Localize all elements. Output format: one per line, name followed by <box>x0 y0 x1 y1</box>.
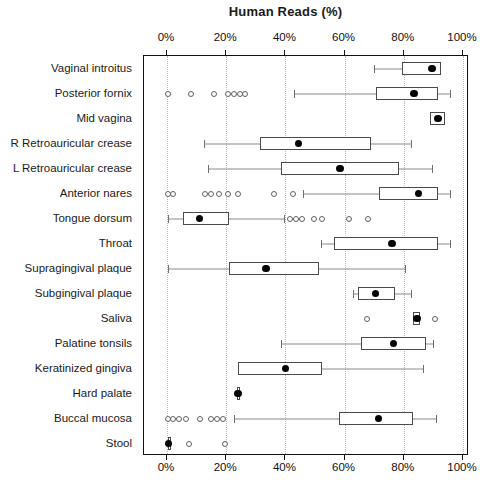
outlier-point <box>176 416 182 422</box>
iqr-box <box>183 212 229 225</box>
mean-marker <box>434 115 442 123</box>
category-label-stool: Stool <box>0 437 138 449</box>
outlier-point <box>216 191 222 197</box>
outlier-point <box>225 91 231 97</box>
x-tick-bottom <box>403 455 404 460</box>
whisker-low-cap <box>168 215 169 223</box>
whisker-low-line <box>208 168 281 169</box>
outlier-point <box>271 191 277 197</box>
outlier-point <box>287 216 293 222</box>
outlier-point <box>346 216 352 222</box>
outlier-point <box>208 191 214 197</box>
x-tick-label-top: 20% <box>202 31 248 43</box>
whisker-low-cap <box>303 190 304 198</box>
category-axis-labels: Vaginal introitusPosterior fornixMid vag… <box>0 55 138 455</box>
whisker-high-cap <box>405 265 406 273</box>
whisker-high-line <box>229 218 284 219</box>
mean-marker <box>262 265 270 273</box>
whisker-low-line <box>303 193 378 194</box>
whisker-low-cap <box>234 415 235 423</box>
outlier-point <box>231 91 237 97</box>
x-tick-label-bottom: 40% <box>261 461 307 473</box>
whisker-high-line <box>438 93 450 94</box>
category-label-hard-palate: Hard palate <box>0 387 138 399</box>
x-tick-bottom <box>284 455 285 460</box>
x-tick-label-top: 100% <box>439 31 485 43</box>
whisker-high-line <box>438 243 450 244</box>
category-label-saliva: Saliva <box>0 312 138 324</box>
mean-marker <box>388 240 396 248</box>
whisker-high-cap <box>284 215 285 223</box>
x-tick-label-bottom: 60% <box>321 461 367 473</box>
x-tick-bottom <box>462 455 463 460</box>
category-label-supragingival-plaque: Supragingival plaque <box>0 262 138 274</box>
outlier-point <box>197 416 203 422</box>
gridline-80 <box>404 56 406 454</box>
outlier-point <box>188 91 194 97</box>
whisker-low-cap <box>321 240 322 248</box>
category-label-subgingival-plaque: Subgingival plaque <box>0 287 138 299</box>
x-tick-bottom <box>225 455 226 460</box>
x-tick-label-bottom: 100% <box>439 461 485 473</box>
whisker-low-line <box>168 268 229 269</box>
x-tick-bottom <box>344 455 345 460</box>
gridline-20 <box>226 56 228 454</box>
whisker-high-cap <box>423 365 424 373</box>
outlier-point <box>222 441 228 447</box>
whisker-low-line <box>294 93 375 94</box>
iqr-box <box>229 262 319 275</box>
category-label-palatine-tonsils: Palatine tonsils <box>0 337 138 349</box>
iqr-box <box>260 137 371 150</box>
whisker-low-line <box>374 68 402 69</box>
iqr-box <box>376 87 438 100</box>
outlier-point <box>365 216 371 222</box>
category-label-vaginal-introitus: Vaginal introitus <box>0 62 138 74</box>
iqr-box <box>334 237 438 250</box>
boxplot-figure: Human Reads (%) Vaginal introitusPosteri… <box>0 0 491 482</box>
category-label-mid-vagina: Mid vagina <box>0 112 138 124</box>
mean-marker <box>428 65 436 73</box>
outlier-point <box>242 91 248 97</box>
iqr-box <box>379 187 438 200</box>
whisker-low-cap <box>353 290 354 298</box>
x-tick-label-bottom: 20% <box>202 461 248 473</box>
x-tick-label-bottom: 80% <box>380 461 426 473</box>
whisker-high-cap <box>450 190 451 198</box>
whisker-low-cap <box>374 65 375 73</box>
outlier-point <box>319 216 325 222</box>
gridline-40 <box>285 56 287 454</box>
mean-marker <box>234 390 242 398</box>
x-tick-bottom <box>166 455 167 460</box>
outlier-point <box>165 91 171 97</box>
whisker-low-cap <box>294 90 295 98</box>
outlier-point <box>290 191 296 197</box>
outlier-point <box>186 441 192 447</box>
whisker-low-line <box>281 343 361 344</box>
gridline-0 <box>167 56 169 454</box>
whisker-low-cap <box>208 165 209 173</box>
outlier-point <box>235 191 241 197</box>
whisker-high-cap <box>432 165 433 173</box>
whisker-high-cap <box>411 290 412 298</box>
outlier-point <box>432 316 438 322</box>
x-tick-label-top: 0% <box>143 31 189 43</box>
whisker-high-cap <box>411 140 412 148</box>
outlier-point <box>220 416 226 422</box>
outlier-point <box>293 216 299 222</box>
whisker-high-cap <box>433 340 434 348</box>
gridline-60 <box>345 56 347 454</box>
whisker-high-line <box>399 168 432 169</box>
whisker-low-line <box>204 143 260 144</box>
gridline-100 <box>463 56 465 454</box>
category-label-l-retroauricular-crease: L Retroauricular crease <box>0 162 138 174</box>
chart-title: Human Reads (%) <box>0 4 491 19</box>
mean-marker <box>410 90 418 98</box>
mean-marker <box>336 165 344 173</box>
whisker-high-cap <box>436 415 437 423</box>
category-label-anterior-nares: Anterior nares <box>0 187 138 199</box>
x-tick-label-top: 80% <box>380 31 426 43</box>
outlier-point <box>211 91 217 97</box>
whisker-high-line <box>413 418 437 419</box>
whisker-low-cap <box>281 340 282 348</box>
category-label-throat: Throat <box>0 237 138 249</box>
